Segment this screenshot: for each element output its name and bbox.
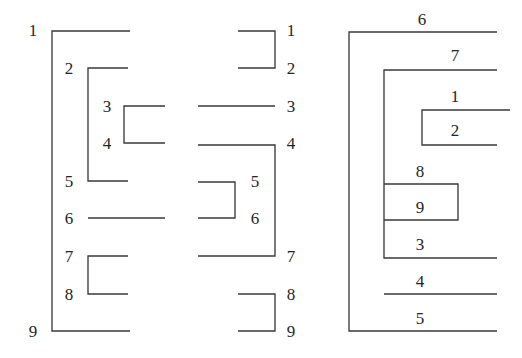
left-endpoint-label-5: 5 (65, 173, 74, 190)
right-arc-7-3 (384, 70, 497, 258)
middle-endpoint-label-5: 5 (251, 173, 260, 190)
middle-arc-5-6 (198, 182, 235, 218)
left-endpoint-label-7: 7 (65, 248, 74, 265)
middle-arc-4-7 (198, 145, 275, 256)
left-endpoint-label-3: 3 (103, 98, 112, 115)
right-endpoint-label-1: 1 (451, 88, 460, 105)
right-endpoint-label-4: 4 (416, 273, 425, 290)
right-endpoint-label-6: 6 (418, 11, 427, 28)
figure-root: 123456789 123456789 671289345 (0, 0, 522, 358)
middle-endpoint-label-9: 9 (287, 323, 296, 340)
right-endpoint-label-8: 8 (416, 163, 425, 180)
middle-arc-8-9 (238, 294, 275, 331)
middle-endpoint-label-1: 1 (287, 22, 296, 39)
left-endpoint-label-2: 2 (65, 60, 74, 77)
arc-diagram-canvas (0, 0, 522, 358)
right-panel-paths (349, 32, 510, 331)
right-endpoint-label-3: 3 (416, 236, 425, 253)
left-arc-3-4 (124, 106, 165, 143)
left-endpoint-label-4: 4 (103, 135, 112, 152)
right-arc-1-2 (422, 110, 510, 145)
right-endpoint-label-2: 2 (451, 122, 460, 139)
middle-endpoint-label-7: 7 (287, 248, 296, 265)
left-endpoint-label-6: 6 (65, 210, 74, 227)
right-endpoint-label-9: 9 (416, 199, 425, 216)
middle-panel-paths (198, 31, 275, 331)
left-endpoint-label-9: 9 (29, 323, 38, 340)
right-endpoint-label-7: 7 (451, 47, 460, 64)
middle-endpoint-label-3: 3 (287, 98, 296, 115)
right-endpoint-label-5: 5 (416, 310, 425, 327)
left-arc-7-8 (88, 256, 128, 294)
left-arc-2-5 (88, 68, 128, 181)
middle-endpoint-label-4: 4 (287, 135, 296, 152)
middle-endpoint-label-6: 6 (251, 210, 260, 227)
left-endpoint-label-8: 8 (65, 286, 74, 303)
middle-endpoint-label-2: 2 (287, 60, 296, 77)
left-endpoint-label-1: 1 (29, 22, 38, 39)
middle-arc-1-2 (238, 31, 275, 68)
middle-endpoint-label-8: 8 (287, 286, 296, 303)
